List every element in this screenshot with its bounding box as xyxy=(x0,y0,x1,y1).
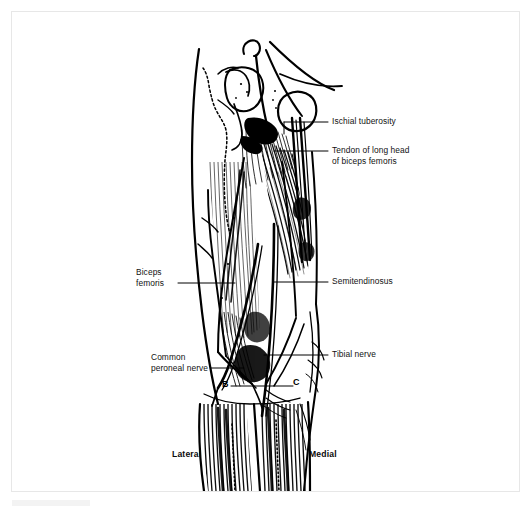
orientation-label-medial: Medial xyxy=(309,449,337,459)
section-marker-b: B xyxy=(222,379,229,389)
page-canvas: Ischial tuberosity Tendon of long head o… xyxy=(0,0,532,508)
label-tibial-nerve: Tibial nerve xyxy=(332,349,376,360)
orientation-label-lateral: Lateral xyxy=(172,449,201,459)
label-common-peroneal-nerve: Common peroneal nerve xyxy=(151,352,208,373)
section-marker-c: C xyxy=(293,377,300,387)
label-ischial-tuberosity: Ischial tuberosity xyxy=(332,116,396,127)
page-bottom-strip xyxy=(12,500,90,506)
anatomy-line-drawing xyxy=(12,12,519,491)
label-biceps-femoris: Biceps femoris xyxy=(136,267,164,288)
label-semitendinosus: Semitendinosus xyxy=(332,276,393,287)
label-tendon-long-head-biceps-femoris: Tendon of long head of biceps femoris xyxy=(332,145,410,166)
anatomical-figure: Ischial tuberosity Tendon of long head o… xyxy=(12,12,519,491)
